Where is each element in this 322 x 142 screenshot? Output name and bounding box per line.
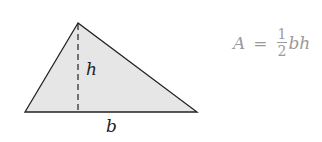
formula-rhs: bh bbox=[288, 33, 310, 53]
formula-fraction: 1 2 bbox=[277, 27, 288, 58]
base-label: b bbox=[106, 116, 117, 136]
fraction-numerator: 1 bbox=[277, 27, 288, 43]
formula-lhs: A bbox=[233, 33, 245, 53]
formula-equals: = bbox=[253, 33, 267, 53]
height-label: h bbox=[86, 59, 97, 79]
area-formula: A = 1 2 bh bbox=[233, 27, 310, 58]
triangle-diagram bbox=[0, 0, 322, 142]
fraction-denominator: 2 bbox=[278, 43, 287, 58]
triangle-shape bbox=[25, 23, 197, 112]
